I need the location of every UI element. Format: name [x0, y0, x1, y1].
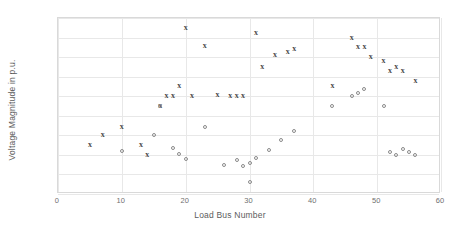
gridline-y-9 — [58, 18, 439, 19]
data-point: x — [254, 29, 258, 37]
data-point — [394, 153, 398, 157]
data-point — [350, 94, 354, 98]
data-point — [362, 87, 366, 91]
data-point: x — [260, 63, 264, 71]
data-point — [184, 157, 188, 161]
data-point: x — [382, 57, 386, 65]
data-point: x — [413, 77, 417, 85]
data-point: x — [369, 53, 373, 61]
x-tick-label-6: 60 — [436, 196, 445, 205]
x-tick-label-0: 0 — [55, 196, 59, 205]
x-tick-label-3: 30 — [244, 196, 253, 205]
x-tick-label-2: 20 — [180, 196, 189, 205]
data-point — [120, 149, 124, 153]
data-point: x — [286, 48, 290, 56]
data-point: x — [184, 24, 188, 32]
scatter-chart-figure: xxxxxxxxxxxxxxxxxxxxxxxxxxxxxxx 0.920.94… — [0, 0, 460, 248]
data-point: x — [216, 91, 220, 99]
data-point — [401, 147, 405, 151]
data-point: x — [362, 43, 366, 51]
data-point: x — [273, 51, 277, 59]
data-point — [177, 152, 181, 156]
data-point — [388, 150, 392, 154]
data-point — [292, 129, 296, 133]
data-point: x — [171, 92, 175, 100]
gridline-x-6 — [441, 18, 442, 192]
data-point — [267, 148, 271, 152]
data-point — [407, 150, 411, 154]
data-point: x — [145, 151, 149, 159]
data-point — [330, 104, 334, 108]
data-point: x — [292, 45, 296, 53]
gridline-y-2 — [58, 155, 439, 156]
data-point: x — [190, 92, 194, 100]
gridline-x-2 — [186, 18, 187, 192]
data-point: x — [401, 67, 405, 75]
data-point: x — [356, 43, 360, 51]
data-point — [413, 153, 417, 157]
data-point: x — [394, 63, 398, 71]
data-point: x — [203, 42, 207, 50]
data-point: x — [235, 92, 239, 100]
data-point — [254, 156, 258, 160]
data-point — [203, 125, 207, 129]
data-point — [222, 163, 226, 167]
gridline-y-5 — [58, 96, 439, 97]
gridline-x-1 — [122, 18, 123, 192]
data-point — [235, 158, 239, 162]
x-tick-label-5: 50 — [372, 196, 381, 205]
data-point: x — [101, 131, 105, 139]
gridline-y-0 — [58, 194, 439, 195]
data-point: x — [330, 82, 334, 90]
data-point — [279, 138, 283, 142]
data-point: x — [228, 92, 232, 100]
gridline-y-8 — [58, 38, 439, 39]
x-tick-label-4: 40 — [308, 196, 317, 205]
x-axis-title: Load Bus Number — [0, 210, 460, 220]
data-point: x — [120, 123, 124, 131]
data-point — [171, 146, 175, 150]
data-point — [241, 164, 245, 168]
data-point: x — [241, 92, 245, 100]
data-point: x — [88, 141, 92, 149]
data-point — [356, 91, 360, 95]
data-point — [248, 180, 252, 184]
data-point: x — [177, 82, 181, 90]
data-point: x — [350, 34, 354, 42]
y-axis-title: Voltage Magnitude in p.u. — [7, 30, 17, 190]
gridline-y-6 — [58, 77, 439, 78]
data-point — [382, 104, 386, 108]
gridline-y-4 — [58, 116, 439, 117]
data-point — [248, 161, 252, 165]
gridline-y-1 — [58, 174, 439, 175]
gridline-x-3 — [250, 18, 251, 192]
data-point: x — [388, 67, 392, 75]
gridline-x-0 — [58, 18, 59, 192]
gridline-y-3 — [58, 135, 439, 136]
x-tick-label-1: 10 — [117, 196, 126, 205]
data-point: x — [139, 141, 143, 149]
data-point — [152, 133, 156, 137]
plot-area: xxxxxxxxxxxxxxxxxxxxxxxxxxxxxxx — [57, 17, 440, 193]
data-point — [158, 104, 162, 108]
gridline-x-4 — [313, 18, 314, 192]
gridline-x-5 — [377, 18, 378, 192]
data-point: x — [165, 92, 169, 100]
